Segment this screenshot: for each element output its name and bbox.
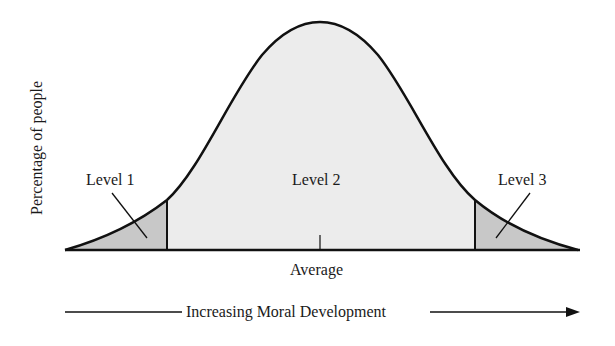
level-3-region (475, 200, 578, 250)
y-axis-label: Percentage of people (29, 81, 45, 215)
average-label: Average (290, 262, 343, 278)
x-axis-direction-label: Increasing Moral Development (186, 304, 386, 320)
level-2-label: Level 2 (292, 172, 340, 188)
level-1-region (65, 200, 167, 250)
level-3-label: Level 3 (498, 172, 546, 188)
level-1-label: Level 1 (86, 172, 134, 188)
arrow-head-icon (566, 307, 580, 317)
